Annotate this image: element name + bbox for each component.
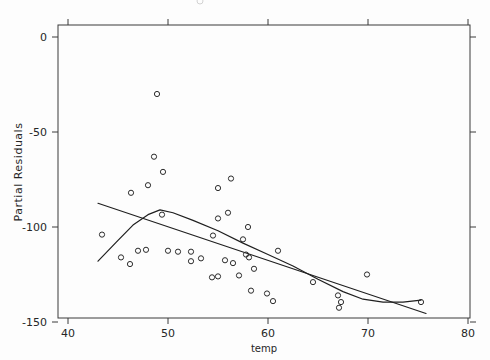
partial-residual-plot: 4050607080 0-50-100-150 temp Partial Res… <box>0 0 490 360</box>
data-point <box>225 210 230 215</box>
y-tick-label--100: -100 <box>22 221 47 234</box>
data-point <box>236 273 241 278</box>
data-point <box>338 299 343 304</box>
chart-canvas: 4050607080 0-50-100-150 temp Partial Res… <box>0 0 490 360</box>
x-tick-label-60: 60 <box>261 327 275 340</box>
x-axis-ticks <box>68 318 468 324</box>
data-point <box>128 190 133 195</box>
data-point <box>275 248 280 253</box>
x-tick-label-70: 70 <box>361 327 375 340</box>
y-tick-label-0: 0 <box>40 31 47 44</box>
data-point <box>143 247 148 252</box>
x-tick-label-80: 80 <box>461 327 475 340</box>
x-axis-tick-labels: 4050607080 <box>61 327 475 340</box>
plot-border <box>58 25 470 318</box>
data-point <box>159 212 164 217</box>
data-point <box>228 176 233 181</box>
linear-fit-line <box>98 203 426 313</box>
data-point <box>222 258 227 263</box>
data-point <box>230 261 235 266</box>
data-point <box>335 293 340 298</box>
data-point <box>188 259 193 264</box>
data-point <box>215 216 220 221</box>
y-axis-tick-labels: 0-50-100-150 <box>22 31 47 329</box>
data-point <box>127 261 132 266</box>
fit-lines-layer <box>98 203 426 313</box>
scatter-points-layer <box>99 91 423 310</box>
y-axis-ticks <box>52 37 58 322</box>
y-tick-label--150: -150 <box>22 316 47 329</box>
cropped-marker-artifact <box>197 0 203 4</box>
data-point <box>188 249 193 254</box>
data-point <box>210 233 215 238</box>
data-point <box>336 305 341 310</box>
data-point <box>209 275 214 280</box>
data-point <box>135 248 140 253</box>
data-point <box>245 224 250 229</box>
data-point <box>310 280 315 285</box>
data-point <box>215 185 220 190</box>
x-tick-label-40: 40 <box>61 327 75 340</box>
data-point <box>160 169 165 174</box>
data-point <box>151 154 156 159</box>
x-axis-ticks-top <box>68 19 468 25</box>
data-point <box>154 91 159 96</box>
data-point <box>145 183 150 188</box>
plot-frame <box>58 25 470 318</box>
data-point <box>215 274 220 279</box>
data-point <box>251 266 256 271</box>
y-axis-title: Partial Residuals <box>12 123 25 222</box>
data-point <box>248 288 253 293</box>
x-tick-label-50: 50 <box>161 327 175 340</box>
smooth-fit-line <box>98 210 421 302</box>
y-axis-ticks-right <box>470 37 476 322</box>
x-axis-title: temp <box>251 343 277 354</box>
data-point <box>270 299 275 304</box>
data-point <box>175 249 180 254</box>
y-tick-label--50: -50 <box>29 126 47 139</box>
data-point <box>364 272 369 277</box>
data-point <box>240 237 245 242</box>
data-point <box>198 256 203 261</box>
data-point <box>165 248 170 253</box>
data-point <box>99 232 104 237</box>
data-point <box>264 291 269 296</box>
data-point <box>118 255 123 260</box>
top-artifact-group <box>197 0 203 4</box>
